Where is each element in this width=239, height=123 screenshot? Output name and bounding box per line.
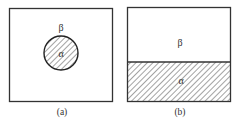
caption-b: (b) — [174, 107, 185, 118]
panel-b: β α (b) — [128, 8, 231, 119]
phase-diagram-figure: β α (a) β α (b) — [0, 0, 239, 123]
beta-label-a: β — [58, 22, 63, 33]
caption-a: (a) — [57, 107, 68, 118]
alpha-label-a: α — [58, 48, 64, 59]
panel-a: β α (a) — [10, 9, 113, 119]
beta-label-b: β — [177, 37, 182, 48]
alpha-label-b: α — [178, 75, 184, 86]
